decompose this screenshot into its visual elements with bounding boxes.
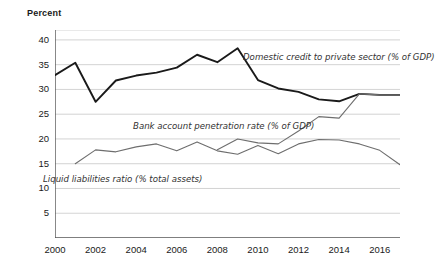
y-tick-label: 5 xyxy=(25,207,49,218)
y-tick-label: 30 xyxy=(25,83,49,94)
x-tick-label: 2004 xyxy=(116,244,156,255)
series-annotation-2: Liquid liabilities ratio (% total assets… xyxy=(43,174,202,184)
y-axis-title: Percent xyxy=(27,8,61,18)
x-tick-label: 2014 xyxy=(319,244,359,255)
y-tick-label: 20 xyxy=(25,133,49,144)
series-line-2 xyxy=(75,139,400,164)
x-tick-label: 2000 xyxy=(35,244,75,255)
series-annotation-0: Domestic credit to private sector (% of … xyxy=(243,52,435,62)
series-annotation-1: Bank account penetration rate (% of GDP) xyxy=(133,121,314,131)
x-tick-label: 2008 xyxy=(197,244,237,255)
x-tick-label: 2010 xyxy=(238,244,278,255)
y-tick-label: 10 xyxy=(25,182,49,193)
y-tick-label: 40 xyxy=(25,34,49,45)
x-tick-label: 2006 xyxy=(157,244,197,255)
y-tick-label: 35 xyxy=(25,59,49,70)
y-tick-label: 25 xyxy=(25,108,49,119)
x-tick-label: 2016 xyxy=(360,244,400,255)
x-tick-label: 2012 xyxy=(279,244,319,255)
y-tick-label: 15 xyxy=(25,158,49,169)
x-tick-label: 2002 xyxy=(76,244,116,255)
